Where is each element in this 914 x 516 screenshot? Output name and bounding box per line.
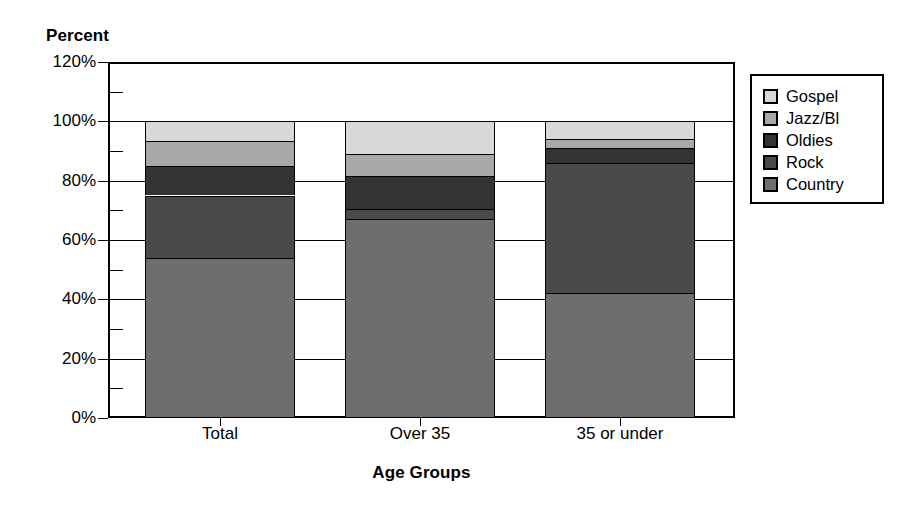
bar-segment-gospel: [545, 121, 695, 139]
bar-segment-jazzbl: [345, 154, 495, 176]
y-tick-label: 80%: [34, 172, 96, 189]
legend-item-rock[interactable]: Rock: [763, 151, 882, 173]
bar-segment-rock: [545, 163, 695, 294]
bar-35-or-under: [545, 62, 695, 418]
x-tick-label-total: Total: [145, 424, 295, 444]
y-minor-tick: [110, 92, 123, 93]
legend-label: Gospel: [786, 88, 838, 105]
stacked-bar-chart: Percent 0%20%40%60%80%100%120% TotalOver…: [0, 0, 914, 516]
bar-segment-rock: [345, 209, 495, 219]
y-minor-tick: [110, 388, 123, 389]
y-major-tick: [98, 62, 108, 63]
y-tick-label: 120%: [34, 53, 96, 70]
x-tick-label-35-or-under: 35 or under: [545, 424, 695, 444]
bar-segment-oldies: [145, 166, 295, 196]
y-minor-tick: [110, 151, 123, 152]
bar-over-35: [345, 62, 495, 418]
legend-label: Oldies: [786, 132, 833, 149]
y-tick-label: 40%: [34, 290, 96, 307]
y-axis-title: Percent: [46, 26, 109, 46]
y-tick-label: 0%: [34, 409, 96, 426]
bar-segment-country: [545, 293, 695, 418]
x-tick-label-over-35: Over 35: [345, 424, 495, 444]
y-minor-tick: [110, 329, 123, 330]
bar-segment-jazzbl: [145, 141, 295, 166]
bar-segment-country: [145, 258, 295, 418]
y-major-tick: [98, 121, 108, 122]
legend-swatch-icon: [763, 111, 778, 126]
y-major-tick: [98, 299, 108, 300]
bar-segment-gospel: [145, 121, 295, 140]
y-major-tick: [98, 181, 108, 182]
legend-swatch-icon: [763, 89, 778, 104]
legend-label: Rock: [786, 154, 824, 171]
y-tick-label: 60%: [34, 231, 96, 248]
legend-swatch-icon: [763, 177, 778, 192]
legend-item-country[interactable]: Country: [763, 173, 882, 195]
legend-swatch-icon: [763, 133, 778, 148]
bar-segment-oldies: [545, 148, 695, 163]
bar-segment-country: [345, 219, 495, 418]
y-minor-tick: [110, 210, 123, 211]
legend: GospelJazz/BlOldiesRockCountry: [750, 74, 884, 204]
legend-label: Jazz/Bl: [786, 110, 839, 127]
bar-segment-rock: [145, 196, 295, 258]
bar-total: [145, 62, 295, 418]
y-tick-label: 100%: [34, 112, 96, 129]
legend-label: Country: [786, 176, 844, 193]
legend-item-jazzbl[interactable]: Jazz/Bl: [763, 107, 882, 129]
x-axis-title: Age Groups: [108, 463, 735, 483]
bar-segment-jazzbl: [545, 139, 695, 148]
y-tick-label: 20%: [34, 350, 96, 367]
y-major-tick: [98, 418, 108, 419]
bar-segment-oldies: [345, 176, 495, 209]
y-minor-tick: [110, 270, 123, 271]
legend-swatch-icon: [763, 155, 778, 170]
y-major-tick: [98, 359, 108, 360]
bar-segment-gospel: [345, 121, 495, 154]
legend-item-oldies[interactable]: Oldies: [763, 129, 882, 151]
y-major-tick: [98, 240, 108, 241]
legend-item-gospel[interactable]: Gospel: [763, 85, 882, 107]
